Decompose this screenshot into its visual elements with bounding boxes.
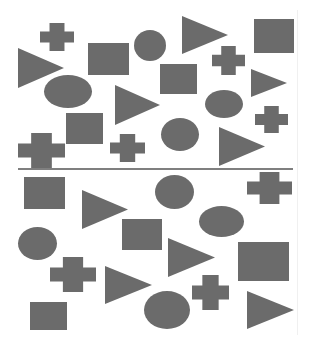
rect-shape (88, 43, 129, 75)
ellipse-shape (44, 75, 92, 108)
cross-shape (110, 134, 145, 162)
rect-shape (238, 242, 289, 281)
triangle-shape (182, 16, 228, 54)
right-edge-line (297, 10, 298, 335)
ellipse-shape (155, 175, 194, 209)
rect-shape (254, 19, 294, 53)
ellipse-shape (144, 291, 190, 329)
rect-shape (24, 177, 65, 209)
ellipse-shape (134, 30, 166, 61)
bottom-panel (18, 172, 294, 330)
cross-shape (192, 275, 229, 310)
rect-shape (160, 64, 197, 94)
triangle-shape (115, 85, 160, 125)
rect-shape (66, 113, 103, 144)
ellipse-shape (205, 90, 243, 118)
triangle-shape (168, 238, 215, 277)
ellipse-shape (18, 227, 57, 260)
triangle-shape (251, 69, 287, 97)
ellipse-shape (161, 118, 199, 151)
rect-shape (30, 302, 67, 330)
cross-shape (255, 106, 288, 133)
triangle-shape (82, 190, 128, 229)
triangle-shape (247, 291, 294, 329)
triangle-shape (219, 127, 265, 166)
cross-shape (247, 172, 292, 204)
rect-shape (122, 219, 162, 250)
cross-shape (50, 257, 96, 292)
cross-shape (40, 23, 74, 51)
triangle-shape (105, 266, 152, 304)
top-panel (18, 16, 294, 168)
cross-shape (18, 133, 65, 168)
cross-shape (212, 46, 245, 75)
shape-figure (0, 0, 312, 352)
ellipse-shape (199, 206, 244, 237)
